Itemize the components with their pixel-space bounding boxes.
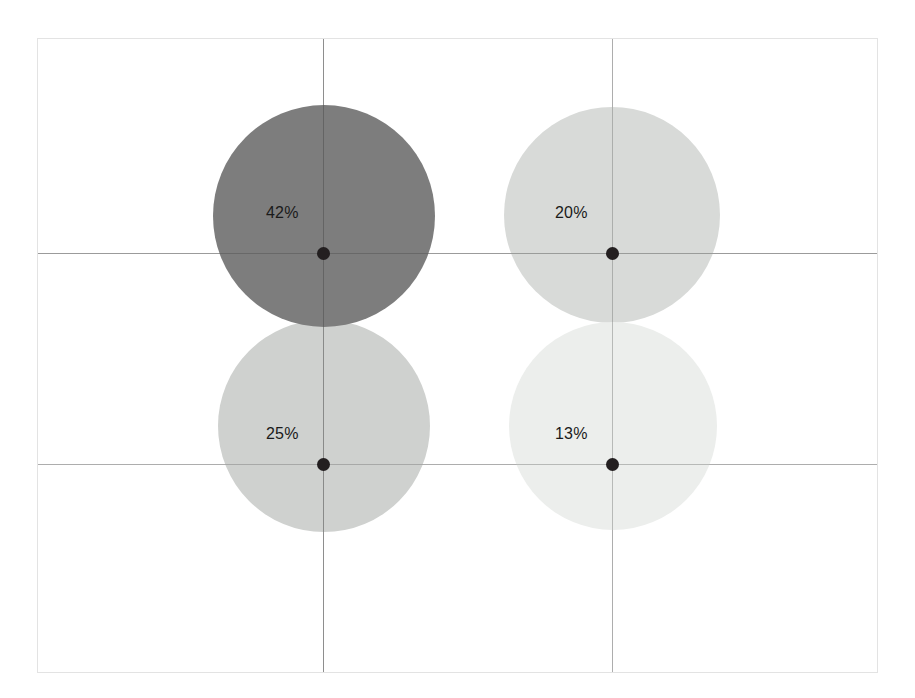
center-marker-20[interactable] bbox=[606, 247, 619, 260]
plot-area: 42% 20% 25% 13% bbox=[37, 38, 878, 673]
gridline-vertical-1-overlay bbox=[323, 39, 324, 672]
center-marker-13[interactable] bbox=[606, 458, 619, 471]
bubble-chart-figure: 42% 20% 25% 13% bbox=[0, 0, 915, 698]
bubble-25-percent[interactable] bbox=[218, 320, 430, 532]
bubble-label-42: 42% bbox=[266, 205, 299, 221]
center-marker-42[interactable] bbox=[317, 247, 330, 260]
bubble-label-25: 25% bbox=[266, 426, 299, 442]
bubble-label-13: 13% bbox=[555, 426, 588, 442]
gridline-vertical-2-overlay bbox=[612, 39, 613, 672]
bubble-layer bbox=[38, 39, 877, 672]
bubble-label-20: 20% bbox=[555, 205, 588, 221]
bubble-42-percent[interactable] bbox=[213, 105, 435, 327]
center-marker-25[interactable] bbox=[317, 458, 330, 471]
gridline-horizontal-1-overlay bbox=[38, 253, 877, 254]
gridline-horizontal-2-overlay bbox=[38, 464, 877, 465]
bubble-13-percent[interactable] bbox=[509, 322, 717, 530]
